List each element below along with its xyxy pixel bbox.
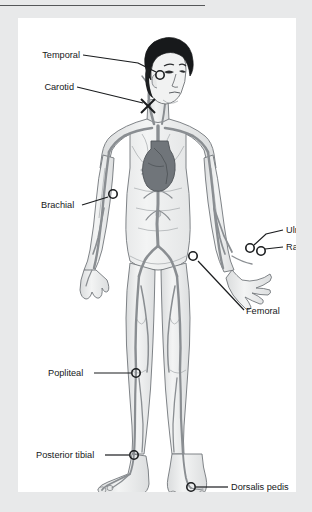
pulse-point-carotid: Carotid — [44, 82, 155, 113]
pulse-point-radial: Radial — [257, 242, 296, 255]
label-dorsalis-pedis: Dorsalis pedis — [231, 482, 289, 492]
abdominal-aorta — [157, 186, 158, 246]
leader-line-carotid — [77, 87, 143, 103]
head — [145, 37, 194, 104]
label-carotid: Carotid — [44, 82, 74, 92]
figure-panel: TemporalCarotidBrachialUlnarRadialFemora… — [18, 18, 296, 492]
left-leg-shape — [126, 263, 155, 454]
marker-femoral — [189, 252, 197, 260]
top-rule-divider — [0, 5, 205, 6]
label-brachial: Brachial — [41, 200, 74, 210]
pulse-points-figure-page: TemporalCarotidBrachialUlnarRadialFemora… — [0, 0, 312, 512]
label-temporal: Temporal — [42, 50, 80, 60]
label-posterior-tibial: Posterior tibial — [36, 450, 94, 460]
label-radial: Radial — [286, 242, 296, 252]
right-hand-shape — [226, 270, 272, 310]
label-femoral: Femoral — [246, 306, 280, 316]
leader-line-radial — [265, 247, 283, 249]
label-ulnar: Ulnar — [286, 225, 296, 235]
label-popliteal: Popliteal — [48, 368, 83, 378]
left-arm-shape — [84, 155, 114, 272]
right-palmar-arch — [232, 256, 252, 264]
right-leg-shape — [161, 263, 190, 454]
marker-radial — [257, 247, 265, 255]
pulse-point-popliteal: Popliteal — [48, 368, 140, 378]
anatomy-illustration: TemporalCarotidBrachialUlnarRadialFemora… — [18, 18, 296, 492]
leader-line-ulnar — [254, 230, 283, 245]
left-hand-shape — [80, 270, 109, 299]
marker-ulnar — [246, 244, 254, 252]
pulse-point-posterior-tibial: Posterior tibial — [36, 450, 138, 460]
